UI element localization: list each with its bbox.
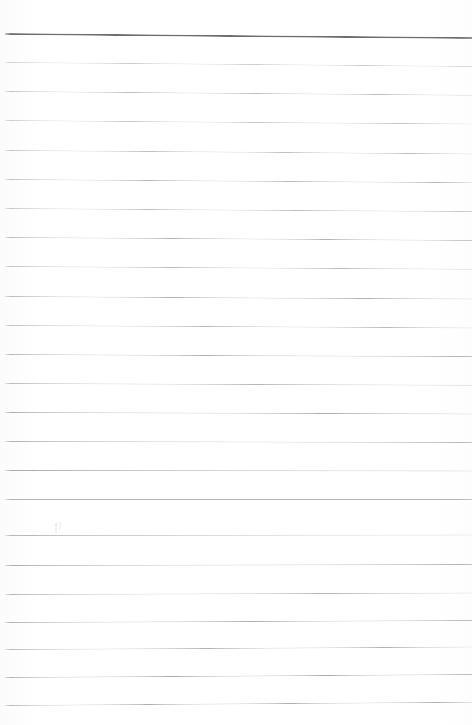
body-rule <box>5 150 472 154</box>
body-rule <box>5 296 472 300</box>
body-rule <box>5 564 472 566</box>
body-rule <box>5 674 472 678</box>
scanned-page <box>0 0 472 725</box>
body-rule <box>5 499 472 500</box>
body-rule <box>5 535 472 536</box>
body-rule <box>5 441 472 443</box>
body-rule <box>5 325 472 328</box>
body-rule <box>5 593 472 595</box>
body-rule <box>5 354 472 357</box>
ruled-lines-layer <box>0 0 472 725</box>
body-rule <box>5 647 472 650</box>
body-rule <box>5 237 472 241</box>
body-rule <box>5 179 472 183</box>
body-rule <box>5 412 472 414</box>
body-rule <box>5 62 472 67</box>
body-rule <box>5 208 472 212</box>
body-rule <box>5 470 472 471</box>
body-rule <box>5 266 472 270</box>
body-rule <box>5 383 472 386</box>
header-rule <box>5 33 472 39</box>
body-rule <box>5 91 472 96</box>
body-rule <box>5 702 472 706</box>
body-rule <box>5 620 472 623</box>
body-rule <box>5 120 472 125</box>
